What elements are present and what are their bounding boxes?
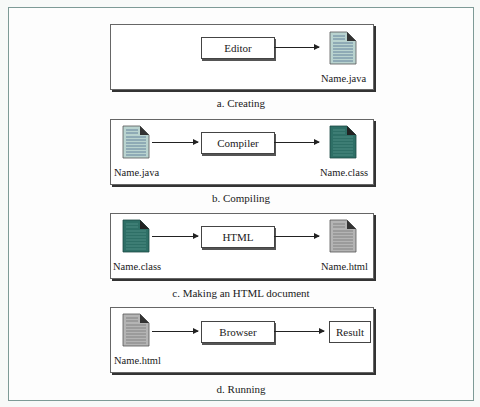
java-file-icon xyxy=(329,31,357,65)
input-label-java: Name.java xyxy=(114,167,159,178)
result-box: Result xyxy=(329,321,371,343)
caption-creating: a. Creating xyxy=(110,97,372,109)
output-label-html: Name.html xyxy=(321,261,368,272)
java-file-icon xyxy=(122,125,150,159)
class-file-icon xyxy=(329,125,357,159)
browser-box: Browser xyxy=(201,321,275,343)
input-label-html: Name.html xyxy=(114,355,161,366)
caption-running: d. Running xyxy=(110,383,372,395)
output-label-java: Name.java xyxy=(321,73,366,84)
output-label-class: Name.class xyxy=(320,167,368,178)
compiler-box: Compiler xyxy=(201,132,275,154)
arrow-htmlfile-to-browser xyxy=(152,331,198,332)
caption-compiling: b. Compiling xyxy=(110,192,372,204)
html-file-icon xyxy=(122,313,150,347)
arrow-browser-to-result xyxy=(274,331,324,332)
editor-box: Editor xyxy=(201,37,275,59)
html-box: HTML xyxy=(201,226,275,248)
arrow-html-to-htmlfile xyxy=(274,236,319,237)
arrow-java-to-compiler xyxy=(152,142,198,143)
arrow-class-to-html xyxy=(152,236,198,237)
html-file-icon xyxy=(329,219,357,253)
class-file-icon xyxy=(122,219,150,253)
caption-making-html: c. Making an HTML document xyxy=(110,287,372,299)
input-label-class: Name.class xyxy=(113,261,161,272)
arrow-editor-to-java xyxy=(274,47,319,48)
arrow-compiler-to-class xyxy=(274,142,319,143)
